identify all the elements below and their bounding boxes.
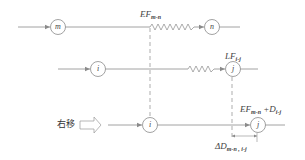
- delta-d-dimension: [232, 133, 257, 142]
- shift-right-hollow-arrow-icon: [80, 117, 101, 133]
- free-float-zigzag-i-j: [188, 66, 214, 72]
- ef-plus-duration-label: EFm-n +Di-j: [240, 105, 281, 115]
- ef-mn-label: EFm-n: [140, 10, 161, 20]
- shift-right-label: 右移: [57, 120, 75, 129]
- node-n-label: n: [205, 20, 219, 34]
- node-m-label: m: [51, 20, 65, 34]
- network-diagram: m n i j i j EFm-n LFi-j EFm-n +Di-j ΔDm-…: [0, 0, 305, 160]
- node-i-bottom-label: i: [143, 118, 157, 132]
- diagram-canvas: [0, 0, 305, 160]
- delta-d-label: ΔDm-n , i-j: [215, 142, 247, 152]
- lf-ij-label: LFi-j: [225, 52, 241, 62]
- node-j-bottom-label: j: [251, 118, 265, 132]
- free-float-zigzag-m-n: [150, 24, 194, 30]
- node-i-top-label: i: [91, 62, 105, 76]
- node-j-top-label: j: [226, 62, 240, 76]
